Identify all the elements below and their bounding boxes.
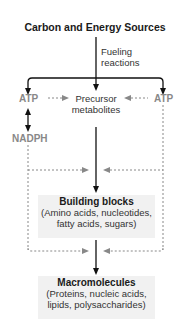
fueling-line1: Fueling xyxy=(101,46,140,57)
macromolecules-line1: (Proteins, nucleic acids, xyxy=(38,288,155,299)
precursor-metabolites-label: Precursor metabolites xyxy=(68,93,124,115)
nadph-label: NADPH xyxy=(12,133,48,144)
macromolecules-line2: lipids, polysaccharides) xyxy=(38,299,155,310)
fueling-line2: reactions xyxy=(101,57,140,68)
carbon-energy-sources-title: Carbon and Energy Sources xyxy=(0,21,179,33)
fueling-reactions-label: Fueling reactions xyxy=(101,46,140,68)
building-blocks-heading: Building blocks xyxy=(38,196,155,207)
atp-left-label: ATP xyxy=(19,93,38,104)
macromolecules-heading: Macromolecules xyxy=(38,277,155,288)
precursor-line1: Precursor xyxy=(68,93,124,104)
building-blocks-box: Building blocks (Amino acids, nucleotide… xyxy=(38,195,155,238)
precursor-line2: metabolites xyxy=(68,104,124,115)
building-blocks-line1: (Amino acids, nucleotides, xyxy=(38,207,155,218)
macromolecules-box: Macromolecules (Proteins, nucleic acids,… xyxy=(38,276,155,319)
building-blocks-line2: fatty acids, sugars) xyxy=(38,218,155,229)
atp-right-label: ATP xyxy=(154,93,173,104)
